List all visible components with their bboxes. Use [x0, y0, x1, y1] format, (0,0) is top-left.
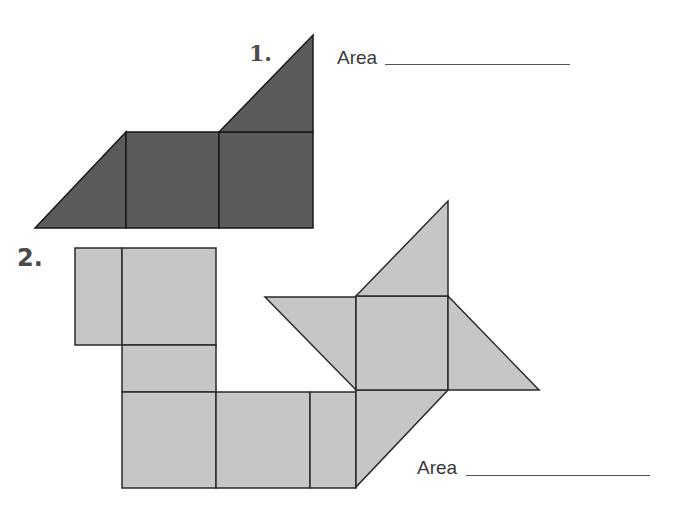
problem-1-area-label: Area — [337, 47, 377, 69]
problem-2-answer-line[interactable] — [466, 475, 650, 476]
problem-2-rectangle-3 — [122, 345, 216, 392]
problem-1-square-2 — [126, 132, 219, 228]
problem-2-triangle-10 — [356, 201, 448, 296]
problem-2-square-2 — [122, 248, 216, 345]
problem-1-answer-line[interactable] — [385, 64, 570, 65]
problem-2-number: 2. — [17, 244, 43, 272]
problem-1-square-3 — [219, 132, 313, 228]
problem-2-square-9 — [356, 296, 448, 390]
problem-2-rectangle-1 — [75, 248, 122, 345]
problem-2-triangle-11 — [448, 296, 539, 390]
problem-1-figure — [0, 0, 673, 515]
problem-2-rectangle-6 — [310, 392, 356, 488]
problem-1-triangle-1 — [35, 132, 126, 228]
problem-2-area-label: Area — [417, 457, 457, 479]
problem-2-square-5 — [216, 392, 310, 488]
problem-1-number: 1. — [249, 40, 272, 66]
problem-2-square-4 — [122, 392, 216, 488]
problem-2-triangle-8 — [265, 297, 356, 390]
